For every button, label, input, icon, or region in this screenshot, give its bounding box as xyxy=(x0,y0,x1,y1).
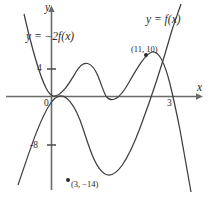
graph-figure: y = −2f(x) y = f(x) x y 4 -8 0 3 (11, 10… xyxy=(0,0,213,199)
y-axis-label: y xyxy=(45,2,50,14)
x-axis-label: x xyxy=(197,82,202,94)
origin-label: 0 xyxy=(44,99,49,109)
point-marker-min xyxy=(66,178,70,182)
y-tick-label-neg8: -8 xyxy=(30,141,38,151)
point-label-max: (11, 10) xyxy=(131,45,158,54)
y-tick-label-4: 4 xyxy=(37,64,42,74)
point-label-min: (3, −14) xyxy=(71,180,98,189)
curve-label-neg2f: y = −2f(x) xyxy=(26,31,74,43)
curve-label-f: y = f(x) xyxy=(146,14,181,26)
x-tick-label-3: 3 xyxy=(167,99,172,109)
